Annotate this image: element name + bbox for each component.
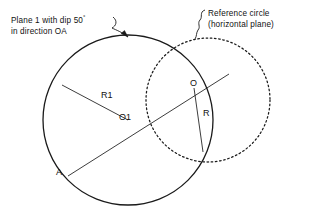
caption-reference-line-1: Reference circle <box>208 8 274 19</box>
caption-plane-1-line-2: in direction OA <box>11 26 86 37</box>
dip-direction-line <box>68 74 229 176</box>
caption-plane-1: Plane 1 with dip 50° in direction OA <box>11 12 86 37</box>
label-point-o1: O1 <box>119 112 131 122</box>
plane-caption-arrowhead <box>121 31 128 38</box>
label-point-o: O <box>190 78 197 88</box>
caption-plane-1-line-1: Plane 1 with dip 50° <box>11 12 86 26</box>
caption-reference-circle: Reference circle (horizontal plane) <box>208 8 274 30</box>
degree-symbol: ° <box>83 14 86 20</box>
reference-caption-leader <box>195 10 205 39</box>
caption-reference-line-2: (horizontal plane) <box>208 19 274 30</box>
reference-circle <box>146 38 270 162</box>
label-radius-r: R <box>203 108 210 118</box>
radius-line-r <box>194 88 203 152</box>
label-point-a: A <box>56 167 62 177</box>
figure-root: Plane 1 with dip 50° in direction OA Ref… <box>0 0 314 219</box>
label-radius-r1: R1 <box>101 90 113 100</box>
caption-plane-1-text: Plane 1 with dip 50 <box>11 16 83 25</box>
